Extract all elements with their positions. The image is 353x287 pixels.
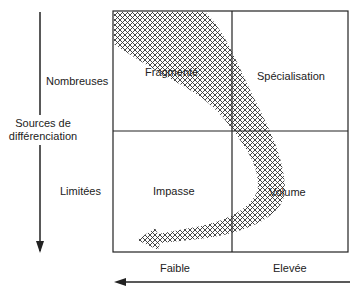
x-axis-low-label: Faible bbox=[160, 262, 190, 275]
y-axis-arrowhead-icon bbox=[36, 241, 44, 253]
y-axis-low-label: Limitées bbox=[60, 185, 101, 198]
y-axis-high-label: Nombreuses bbox=[46, 75, 108, 88]
matrix-diagram bbox=[0, 0, 353, 287]
x-axis-arrowhead-icon bbox=[114, 278, 126, 286]
quadrant-label-specialisation: Spécialisation bbox=[257, 70, 325, 83]
quadrant-label-volume: Volume bbox=[269, 186, 306, 199]
quadrant-label-fragmented: Fragmenté bbox=[145, 66, 198, 79]
x-axis-high-label: Elevée bbox=[273, 262, 307, 275]
y-axis-title-line2: différenciation bbox=[4, 130, 82, 143]
y-axis-title: Sources de différenciation bbox=[4, 117, 82, 143]
y-axis-title-line1: Sources de bbox=[4, 117, 82, 130]
quadrant-label-impasse: Impasse bbox=[153, 185, 195, 198]
